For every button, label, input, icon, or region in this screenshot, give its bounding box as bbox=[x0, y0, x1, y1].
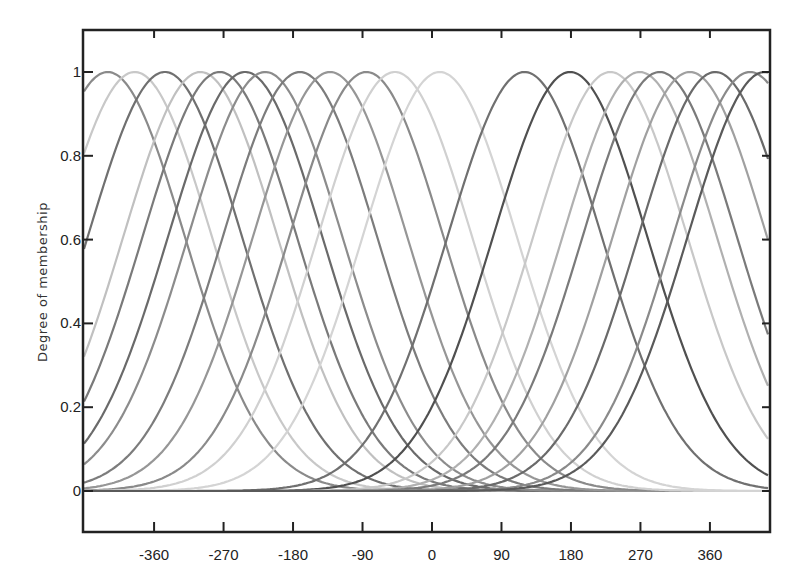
x-tick-label: 0 bbox=[428, 546, 436, 563]
x-tick-label: 270 bbox=[628, 546, 653, 563]
x-tick-label: -270 bbox=[209, 546, 239, 563]
y-axis-label: Degree of membership bbox=[35, 202, 50, 362]
x-tick-label: -90 bbox=[352, 546, 374, 563]
x-tick-label: -360 bbox=[139, 546, 169, 563]
membership-chart: -360-270-180-90090180270360 00.20.40.60.… bbox=[0, 0, 804, 579]
y-tick-label: 0 bbox=[73, 482, 81, 499]
x-tick-label: 180 bbox=[558, 546, 583, 563]
x-tick-label: -180 bbox=[278, 546, 308, 563]
x-tick-label: 90 bbox=[493, 546, 510, 563]
y-tick-label: 0.2 bbox=[60, 398, 81, 415]
x-tick-label: 360 bbox=[697, 546, 722, 563]
y-tick-label: 0.8 bbox=[60, 147, 81, 164]
y-tick-label: 0.4 bbox=[60, 314, 81, 331]
y-tick-label: 1 bbox=[73, 63, 81, 80]
y-tick-label: 0.6 bbox=[60, 231, 81, 248]
